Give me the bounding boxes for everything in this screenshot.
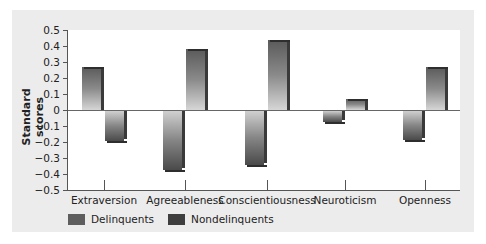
legend-label-nondelinquents: Nondelinquents <box>191 213 274 225</box>
bar-side-shade <box>182 111 185 168</box>
x-tick-mark <box>345 180 346 190</box>
bar-delinquents-extraversion <box>82 67 101 110</box>
y-tick-mark <box>63 158 68 159</box>
y-tick-label: −0.1 <box>20 120 60 132</box>
bar-end-shade <box>84 67 104 69</box>
x-axis <box>67 190 460 191</box>
y-tick-mark <box>63 190 68 191</box>
bar-nondelinquents-neuroticism <box>346 99 365 110</box>
y-tick-label: −0.3 <box>20 152 60 164</box>
bar-delinquents-neuroticism <box>323 111 342 122</box>
y-tick-label: −0.2 <box>20 136 60 148</box>
bar-end-shade <box>325 122 345 124</box>
y-tick-mark <box>63 94 68 95</box>
y-tick-label: 0.2 <box>20 72 60 84</box>
y-tick-mark <box>63 126 68 127</box>
legend-label-delinquents: Delinquents <box>91 213 154 225</box>
bar-end-shade <box>188 49 208 51</box>
bar-end-shade <box>107 141 127 143</box>
bar-delinquents-conscientiousness <box>245 111 264 165</box>
bar-end-shade <box>247 165 267 167</box>
bar-end-shade <box>405 140 425 142</box>
y-axis-title: Standard scores <box>20 72 46 162</box>
y-tick-mark <box>63 110 68 111</box>
bar-delinquents-openness <box>403 111 422 140</box>
bar-side-shade <box>422 111 425 138</box>
y-tick-mark <box>63 62 68 63</box>
y-tick-mark <box>63 46 68 47</box>
legend-swatch-delinquents <box>68 214 85 225</box>
bar-nondelinquents-conscientiousness <box>268 40 287 110</box>
legend-item-delinquents: Delinquents <box>68 213 154 225</box>
y-tick-label: 0 <box>20 104 60 116</box>
legend-item-nondelinquents: Nondelinquents <box>168 213 274 225</box>
x-tick-mark <box>425 180 426 190</box>
y-tick-label: 0.5 <box>20 24 60 36</box>
y-tick-mark <box>63 78 68 79</box>
bar-delinquents-agreeableness <box>163 111 182 170</box>
bar-side-shade <box>287 42 290 110</box>
y-tick-label: −0.4 <box>20 168 60 180</box>
bar-side-shade <box>124 111 127 139</box>
y-tick-label: 0.1 <box>20 88 60 100</box>
bar-nondelinquents-agreeableness <box>186 49 205 110</box>
bar-side-shade <box>264 111 267 163</box>
bar-side-shade <box>365 101 368 110</box>
bar-side-shade <box>101 69 104 110</box>
legend: Delinquents Nondelinquents <box>68 211 288 227</box>
bar-side-shade <box>205 51 208 110</box>
bar-end-shade <box>428 67 448 69</box>
y-tick-label: 0.3 <box>20 56 60 68</box>
x-category-label: Openness <box>375 194 475 206</box>
y-tick-mark <box>63 30 68 31</box>
bar-end-shade <box>348 99 368 101</box>
x-tick-mark <box>267 180 268 190</box>
x-tick-mark <box>185 180 186 190</box>
bar-end-shade <box>270 40 290 42</box>
legend-swatch-nondelinquents <box>168 214 185 225</box>
x-tick-mark <box>104 180 105 190</box>
bar-nondelinquents-openness <box>426 67 445 110</box>
y-tick-mark <box>63 174 68 175</box>
y-tick-label: 0.4 <box>20 40 60 52</box>
y-tick-mark <box>63 142 68 143</box>
bar-side-shade <box>445 69 448 110</box>
bar-nondelinquents-extraversion <box>105 111 124 141</box>
bar-end-shade <box>165 170 185 172</box>
bar-side-shade <box>342 111 345 120</box>
